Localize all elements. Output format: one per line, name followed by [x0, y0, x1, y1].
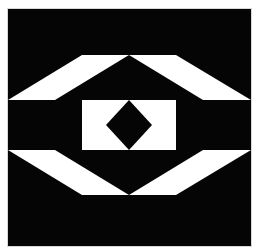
artwork-canvas: Black and White Geometric Op-Art Composi… — [0, 0, 257, 251]
geometric-composition-svg — [0, 0, 257, 251]
